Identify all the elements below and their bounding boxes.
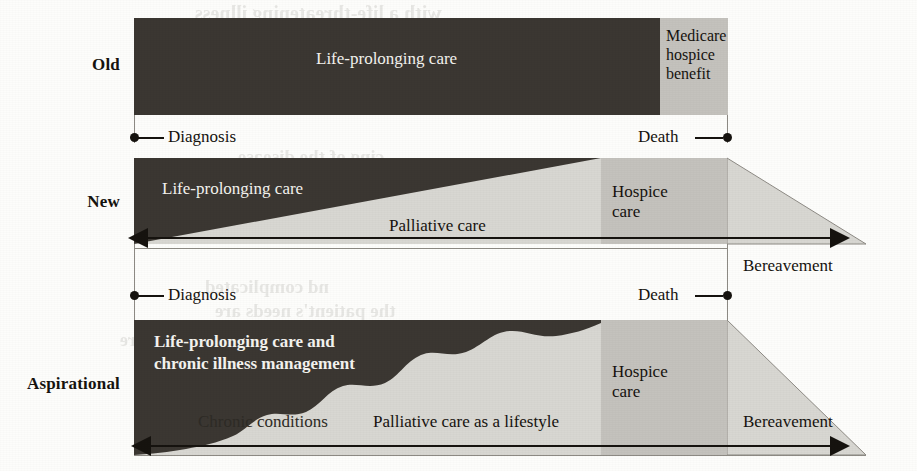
aspirational-row-timeline-arrow [0,0,917,471]
care-models-diagram: Old Life-prolonging care Medicare hospic… [0,0,917,471]
bereavement-label-aspirational: Bereavement [743,412,833,432]
